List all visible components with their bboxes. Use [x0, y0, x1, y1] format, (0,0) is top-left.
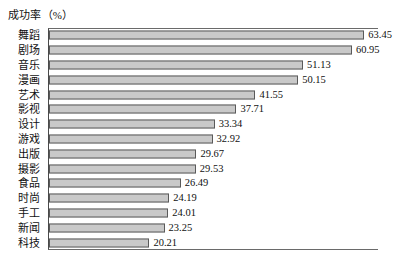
- bar: [49, 90, 255, 99]
- category-label: 音乐: [0, 59, 44, 71]
- bar-value-label: 20.21: [153, 237, 177, 249]
- bar-value-label: 26.49: [185, 177, 209, 189]
- category-label: 漫画: [0, 74, 44, 86]
- bar-row: 漫画50.15: [0, 72, 410, 87]
- category-label: 艺术: [0, 89, 44, 101]
- bar-chart: 成功率（%） 舞蹈63.45剧场60.95音乐51.13漫画50.15艺术41.…: [0, 0, 410, 264]
- bar: [49, 149, 196, 158]
- category-label: 剧场: [0, 44, 44, 56]
- bar: [49, 105, 236, 114]
- bar-row: 时尚24.19: [0, 191, 410, 206]
- bar-value-label: 32.92: [217, 133, 241, 145]
- bar-value-label: 24.01: [172, 207, 196, 219]
- category-label: 游戏: [0, 133, 44, 145]
- bar-value-label: 50.15: [302, 74, 326, 86]
- category-label: 出版: [0, 148, 44, 160]
- bar: [49, 164, 196, 173]
- bar-value-label: 23.25: [169, 222, 193, 234]
- bar: [49, 46, 352, 55]
- bar-row: 剧场60.95: [0, 43, 410, 58]
- bar-row: 出版29.67: [0, 146, 410, 161]
- category-label: 新闻: [0, 222, 44, 234]
- bar-value-label: 37.71: [240, 103, 264, 115]
- bar-row: 艺术41.55: [0, 87, 410, 102]
- bar: [49, 238, 149, 247]
- category-label: 设计: [0, 118, 44, 130]
- category-label: 手工: [0, 207, 44, 219]
- bar-value-label: 29.67: [200, 148, 224, 160]
- bar-row: 影视37.71: [0, 102, 410, 117]
- bar-value-label: 60.95: [356, 44, 380, 56]
- category-label: 影视: [0, 103, 44, 115]
- category-label: 食品: [0, 177, 44, 189]
- bar-row: 游戏32.92: [0, 132, 410, 147]
- bar-value-label: 63.45: [368, 29, 392, 41]
- bar: [49, 208, 168, 217]
- bar: [49, 120, 215, 129]
- bar-rows: 舞蹈63.45剧场60.95音乐51.13漫画50.15艺术41.55影视37.…: [0, 28, 410, 250]
- bar: [49, 60, 303, 69]
- bar-row: 手工24.01: [0, 206, 410, 221]
- bar-row: 舞蹈63.45: [0, 28, 410, 43]
- bar: [49, 31, 364, 40]
- bar: [49, 134, 213, 143]
- bar: [49, 194, 169, 203]
- bar-value-label: 41.55: [259, 89, 283, 101]
- bar-value-label: 24.19: [173, 192, 197, 204]
- bar-row: 新闻23.25: [0, 220, 410, 235]
- bar: [49, 223, 165, 232]
- bar-row: 摄影29.53: [0, 161, 410, 176]
- category-label: 舞蹈: [0, 29, 44, 41]
- bar-value-label: 29.53: [200, 163, 224, 175]
- bar: [49, 75, 298, 84]
- category-label: 时尚: [0, 192, 44, 204]
- bar-row: 科技20.21: [0, 235, 410, 250]
- bar-row: 食品26.49: [0, 176, 410, 191]
- bar-row: 设计33.34: [0, 117, 410, 132]
- category-label: 摄影: [0, 163, 44, 175]
- bar-row: 音乐51.13: [0, 58, 410, 73]
- bar: [49, 179, 181, 188]
- chart-title: 成功率（%）: [8, 9, 73, 22]
- bar-value-label: 33.34: [219, 118, 243, 130]
- bar-value-label: 51.13: [307, 59, 331, 71]
- category-label: 科技: [0, 237, 44, 249]
